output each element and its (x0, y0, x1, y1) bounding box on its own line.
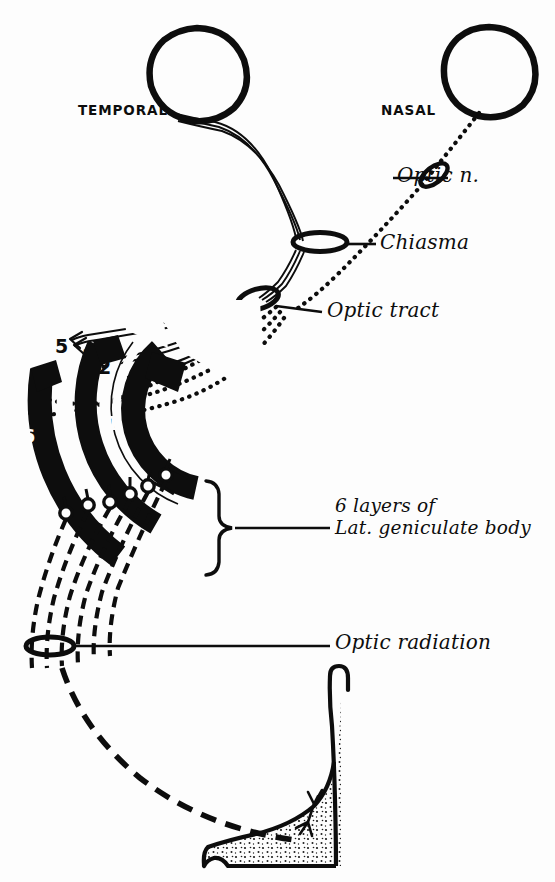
label-optic-nerve: Optic n. (397, 165, 479, 186)
figure-canvas: TEMPORAL NASAL Optic n. Chiasma Optic tr… (0, 0, 555, 882)
right-eye-nasal (444, 27, 536, 117)
relay-neuron-soma (60, 507, 72, 519)
uncrossed-fiber-bundle-lower (259, 250, 304, 302)
label-chiasma: Chiasma (380, 232, 469, 253)
relay-neuron-soma (104, 496, 116, 508)
lgn-layer-number-1: 1 (106, 412, 119, 434)
label-geniculate-line2: Lat. geniculate body (335, 518, 531, 538)
label-optic-tract: Optic tract (327, 300, 439, 321)
uncrossed-fiber-bundle (172, 113, 303, 241)
label-nasal: NASAL (381, 103, 436, 117)
lgn-layer-number-3: 3 (82, 345, 95, 367)
label-temporal: TEMPORAL (78, 103, 168, 117)
optic-chiasma-marker (293, 233, 347, 252)
lgn-layer-number-2: 2 (98, 356, 111, 378)
relay-neuron-soma (124, 488, 136, 500)
relay-neuron-soma (82, 499, 94, 511)
geniculate-brace (206, 481, 232, 575)
radiation-to-cortex-path (62, 668, 295, 840)
label-optic-radiation: Optic radiation (335, 632, 491, 653)
lgn-layer-number-5: 5 (55, 335, 68, 357)
occipital-cortex (204, 666, 348, 866)
lgn-layer-number-4: 4 (60, 428, 73, 450)
lgn-layer-number-6: 6 (22, 425, 35, 447)
relay-neuron-soma (160, 469, 172, 481)
crossed-fiber-bundle (298, 113, 479, 308)
label-geniculate-line1: 6 layers of (335, 496, 435, 516)
visual-pathway-diagram (0, 0, 555, 882)
